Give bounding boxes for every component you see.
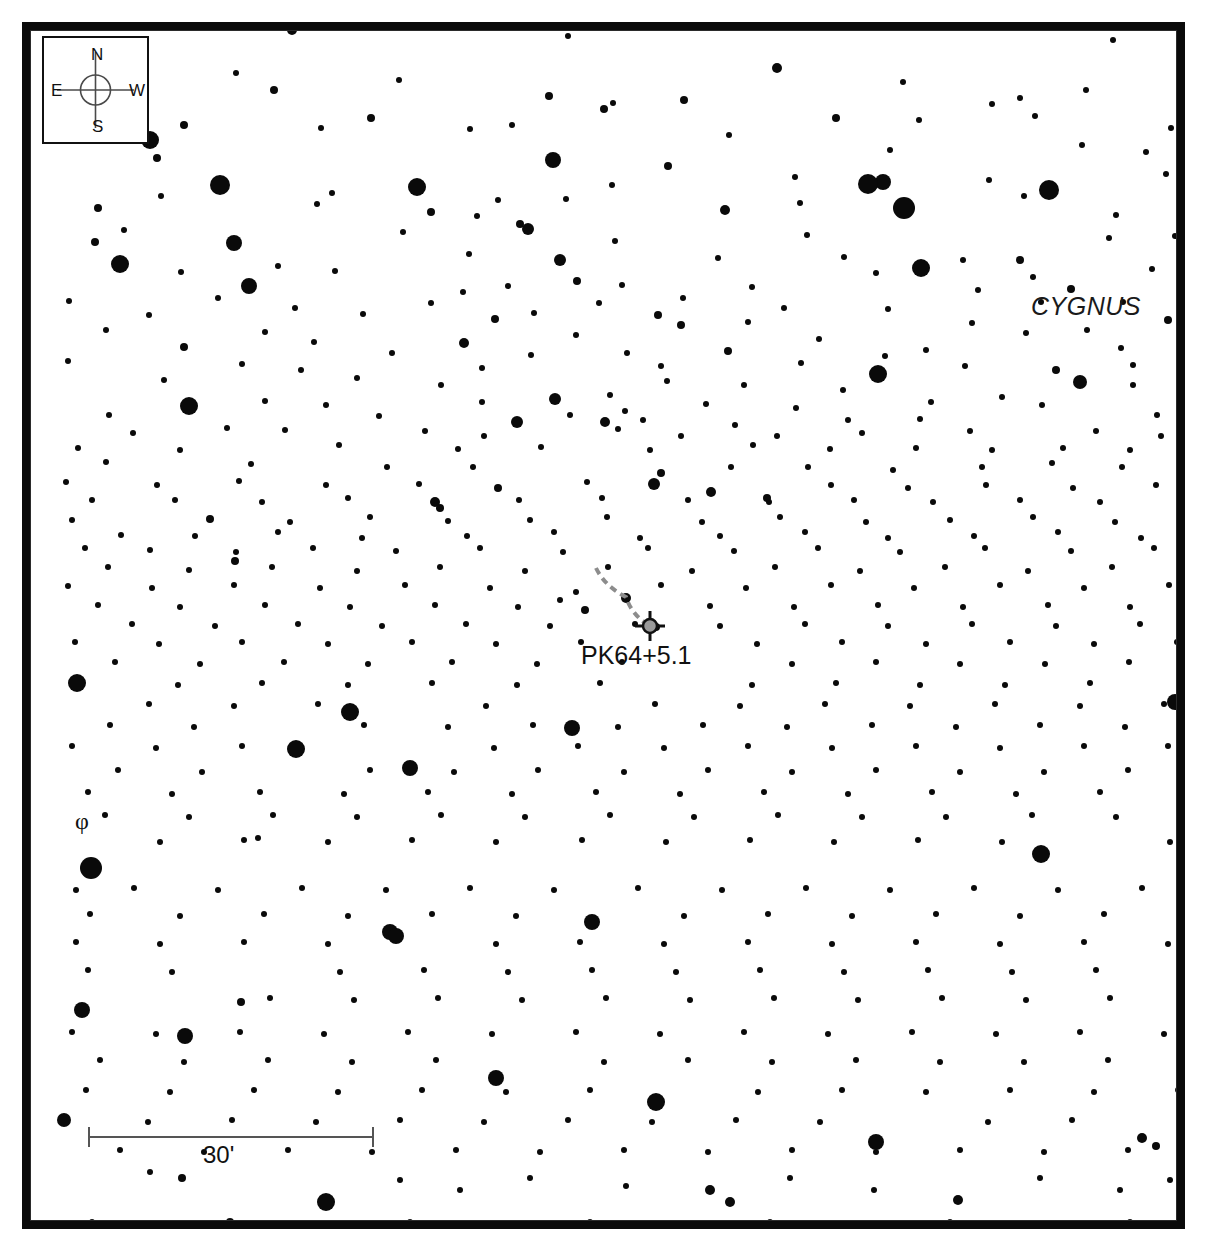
star-chart-root: N S E W CYGNUS PK64+5.1 φ 30' [0, 0, 1207, 1251]
star-dot [871, 1187, 877, 1193]
star-dot [514, 682, 520, 688]
star-dot [554, 254, 566, 266]
star-dot [477, 545, 483, 551]
star-dot [400, 229, 406, 235]
star-dot [269, 564, 275, 570]
star-dot [719, 887, 725, 893]
star-dot [647, 447, 653, 453]
star-dot [287, 30, 297, 35]
star-dot [177, 604, 183, 610]
star-dot [657, 1031, 663, 1037]
star-dot [153, 154, 161, 162]
star-dot [383, 887, 389, 893]
star-dot [545, 152, 561, 168]
star-dot [287, 740, 305, 758]
star-dot [1109, 564, 1115, 570]
star-dot [615, 724, 621, 730]
star-dot [513, 913, 519, 919]
star-dot [467, 885, 473, 891]
star-dot [652, 701, 658, 707]
star-dot [436, 504, 444, 512]
star-dot [1167, 1177, 1173, 1183]
star-dot [233, 70, 239, 76]
star-dot [925, 967, 931, 973]
star-dot [680, 295, 686, 301]
star-dot [261, 911, 267, 917]
star-dot [481, 1119, 487, 1125]
star-dot [1032, 845, 1050, 863]
star-dot [805, 464, 811, 470]
star-dot [445, 518, 451, 524]
star-dot [705, 767, 711, 773]
star-dot [593, 789, 599, 795]
star-dot [419, 1087, 425, 1093]
star-dot [645, 545, 651, 551]
star-dot [923, 641, 929, 647]
star-dot [912, 259, 930, 277]
star-dot [873, 270, 879, 276]
star-dot [325, 839, 331, 845]
scale-bar-tick-right [372, 1127, 374, 1147]
star-dot [270, 86, 278, 94]
star-dot [106, 412, 112, 418]
star-dot [841, 254, 847, 260]
star-dot [262, 329, 268, 335]
star-dot [416, 481, 422, 487]
star-dot [270, 812, 276, 818]
star-dot [422, 428, 428, 434]
star-dot [180, 121, 188, 129]
star-dot [367, 114, 375, 122]
star-dot [724, 347, 732, 355]
star-dot [481, 433, 487, 439]
star-dot [154, 482, 160, 488]
star-dot [493, 641, 499, 647]
star-dot [772, 564, 778, 570]
star-dot [726, 132, 732, 138]
star-dot [397, 1177, 403, 1183]
star-dot [226, 235, 242, 251]
star-dot [754, 641, 760, 647]
star-dot [986, 177, 992, 183]
star-dot [435, 995, 441, 1001]
star-dot [622, 408, 628, 414]
star-dot [637, 535, 643, 541]
star-dot [103, 459, 109, 465]
star-dot [839, 639, 845, 645]
star-dot [73, 887, 79, 893]
star-dot [607, 812, 613, 818]
star-dot [73, 939, 79, 945]
star-dot [815, 545, 821, 551]
star-dot [767, 1219, 773, 1221]
star-designation-phi: φ [75, 808, 89, 835]
star-dot [1152, 1142, 1160, 1150]
star-dot [689, 568, 695, 574]
star-dot [1127, 447, 1133, 453]
star-dot [522, 814, 528, 820]
star-dot [893, 197, 915, 219]
star-dot [509, 122, 515, 128]
star-dot [673, 969, 679, 975]
star-dot [971, 533, 977, 539]
star-dot [376, 413, 382, 419]
star-dot [1127, 1219, 1133, 1221]
star-dot [829, 745, 835, 751]
star-dot [1002, 682, 1008, 688]
star-dot [147, 1169, 153, 1175]
star-dot [453, 1147, 459, 1153]
star-dot [428, 300, 434, 306]
star-dot [957, 661, 963, 667]
star-dot [969, 621, 975, 627]
star-dot [705, 1149, 711, 1155]
star-dot [841, 969, 847, 975]
star-dot [1077, 703, 1083, 709]
star-dot [191, 724, 197, 730]
star-dot [1037, 722, 1043, 728]
star-dot [129, 621, 135, 627]
star-dot [509, 791, 515, 797]
star-dot [534, 661, 540, 667]
star-dot [705, 1185, 715, 1195]
star-dot [365, 661, 371, 667]
compass-label-west: W [129, 82, 145, 99]
star-dot [149, 585, 155, 591]
star-dot [1039, 180, 1059, 200]
